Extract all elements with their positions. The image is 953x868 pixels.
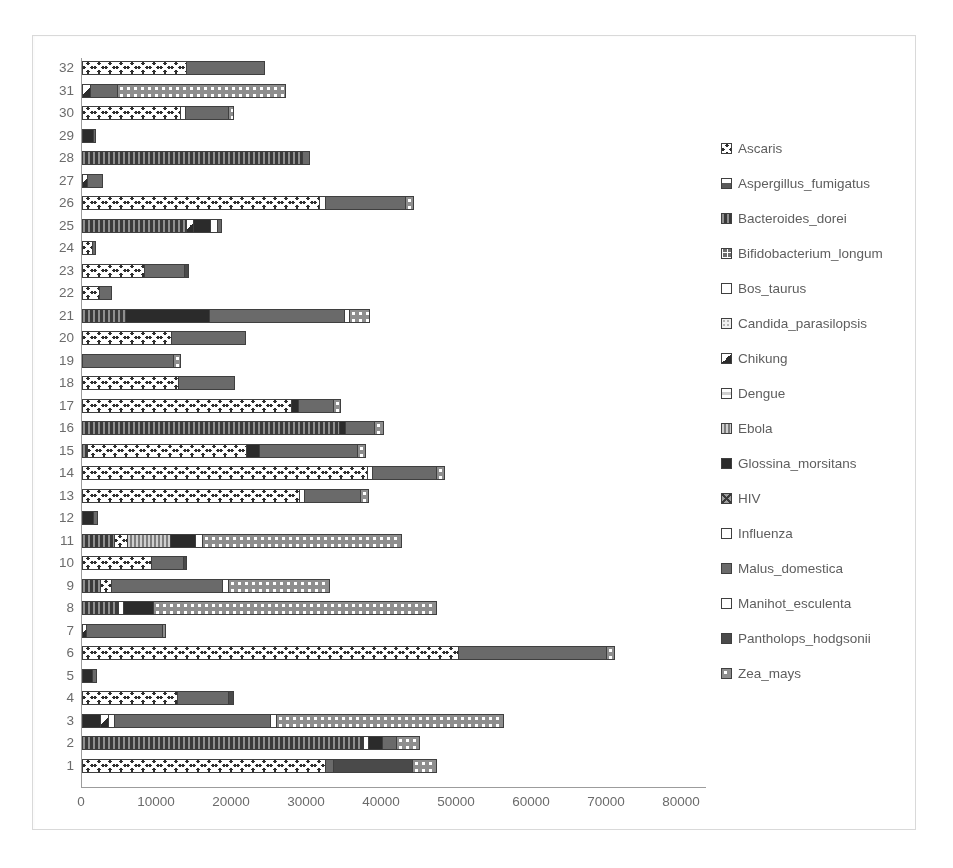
legend-item[interactable]: Bacteroides_dorei	[721, 201, 911, 236]
bar-row[interactable]: 12	[82, 511, 98, 525]
bar-row[interactable]: 11	[82, 534, 402, 548]
bar-row[interactable]: 7	[82, 624, 166, 638]
legend-item[interactable]: Candida_parasilopsis	[721, 306, 911, 341]
bar-segment[interactable]	[82, 399, 291, 413]
bar-segment[interactable]	[82, 376, 178, 390]
bar-segment[interactable]	[333, 759, 412, 773]
bar-segment[interactable]	[298, 399, 333, 413]
bar-segment[interactable]	[114, 714, 271, 728]
legend-item[interactable]: Bifidobacterium_longum	[721, 236, 911, 271]
bar-segment[interactable]	[193, 219, 210, 233]
bar-segment[interactable]	[302, 151, 310, 165]
legend-item[interactable]: Influenza	[721, 516, 911, 551]
bar-segment[interactable]	[87, 444, 246, 458]
legend-item[interactable]: Ascaris	[721, 131, 911, 166]
bar-segment[interactable]	[82, 309, 125, 323]
bar-segment[interactable]	[82, 106, 180, 120]
bar-segment[interactable]	[92, 241, 96, 255]
bar-row[interactable]: 14	[82, 466, 445, 480]
legend-item[interactable]: Ebola	[721, 411, 911, 446]
bar-row[interactable]: 19	[82, 354, 181, 368]
bar-segment[interactable]	[82, 714, 100, 728]
bar-row[interactable]: 18	[82, 376, 235, 390]
bar-segment[interactable]	[82, 534, 114, 548]
bar-row[interactable]: 6	[82, 646, 615, 660]
bar-segment[interactable]	[209, 309, 344, 323]
bar-segment[interactable]	[170, 534, 196, 548]
bar-row[interactable]: 5	[82, 669, 97, 683]
legend-item[interactable]: Bos_taurus	[721, 271, 911, 306]
bar-segment[interactable]	[125, 309, 209, 323]
bar-segment[interactable]	[153, 601, 437, 615]
legend-item[interactable]: Dengue	[721, 376, 911, 411]
bar-segment[interactable]	[405, 196, 414, 210]
bar-segment[interactable]	[82, 84, 90, 98]
bar-segment[interactable]	[171, 331, 245, 345]
bar-segment[interactable]	[291, 399, 298, 413]
bar-segment[interactable]	[184, 264, 189, 278]
bar-segment[interactable]	[185, 106, 229, 120]
bar-row[interactable]: 26	[82, 196, 414, 210]
legend-item[interactable]: Manihot_esculenta	[721, 586, 911, 621]
bar-row[interactable]: 32	[82, 61, 265, 75]
bar-row[interactable]: 25	[82, 219, 222, 233]
bar-segment[interactable]	[360, 489, 369, 503]
bar-segment[interactable]	[177, 691, 228, 705]
bar-segment[interactable]	[82, 61, 186, 75]
bar-segment[interactable]	[82, 759, 325, 773]
bar-segment[interactable]	[92, 669, 97, 683]
bar-segment[interactable]	[173, 354, 181, 368]
bar-segment[interactable]	[82, 264, 144, 278]
bar-segment[interactable]	[82, 511, 93, 525]
bar-row[interactable]: 31	[82, 84, 286, 98]
bar-segment[interactable]	[82, 601, 118, 615]
bar-segment[interactable]	[357, 444, 366, 458]
bar-segment[interactable]	[382, 736, 396, 750]
bar-segment[interactable]	[276, 714, 504, 728]
bar-segment[interactable]	[339, 421, 346, 435]
bar-segment[interactable]	[90, 84, 117, 98]
bar-segment[interactable]	[183, 556, 187, 570]
bar-segment[interactable]	[93, 129, 97, 143]
bar-segment[interactable]	[117, 84, 286, 98]
bar-segment[interactable]	[87, 174, 103, 188]
bar-segment[interactable]	[162, 624, 167, 638]
bar-row[interactable]: 29	[82, 129, 96, 143]
bar-row[interactable]: 21	[82, 309, 370, 323]
bar-segment[interactable]	[228, 691, 233, 705]
bar-segment[interactable]	[82, 669, 92, 683]
bar-row[interactable]: 15	[82, 444, 366, 458]
bar-segment[interactable]	[127, 534, 170, 548]
bar-segment[interactable]	[93, 511, 98, 525]
legend-item[interactable]: Chikung	[721, 341, 911, 376]
bar-row[interactable]: 1	[82, 759, 437, 773]
legend-item[interactable]: Zea_mays	[721, 656, 911, 691]
legend-item[interactable]: Malus_domestica	[721, 551, 911, 586]
bar-segment[interactable]	[82, 286, 99, 300]
bar-segment[interactable]	[100, 579, 111, 593]
bar-segment[interactable]	[186, 61, 265, 75]
bar-segment[interactable]	[82, 556, 151, 570]
bar-segment[interactable]	[82, 579, 100, 593]
bar-segment[interactable]	[368, 736, 382, 750]
bar-row[interactable]: 16	[82, 421, 384, 435]
legend-item[interactable]: Pantholops_hodgsonii	[721, 621, 911, 656]
bar-segment[interactable]	[228, 106, 233, 120]
bar-segment[interactable]	[333, 399, 341, 413]
bar-segment[interactable]	[217, 219, 222, 233]
bar-segment[interactable]	[178, 376, 235, 390]
bar-segment[interactable]	[82, 646, 458, 660]
bar-segment[interactable]	[82, 691, 177, 705]
legend-item[interactable]: Aspergillus_fumigatus	[721, 166, 911, 201]
bar-segment[interactable]	[111, 579, 221, 593]
bar-segment[interactable]	[210, 219, 217, 233]
bar-row[interactable]: 9	[82, 579, 330, 593]
bar-row[interactable]: 28	[82, 151, 310, 165]
bar-segment[interactable]	[186, 219, 193, 233]
legend-item[interactable]: HIV	[721, 481, 911, 516]
bar-segment[interactable]	[345, 421, 374, 435]
bar-segment[interactable]	[82, 241, 92, 255]
bar-segment[interactable]	[349, 309, 370, 323]
bar-segment[interactable]	[82, 489, 299, 503]
bar-segment[interactable]	[82, 354, 173, 368]
